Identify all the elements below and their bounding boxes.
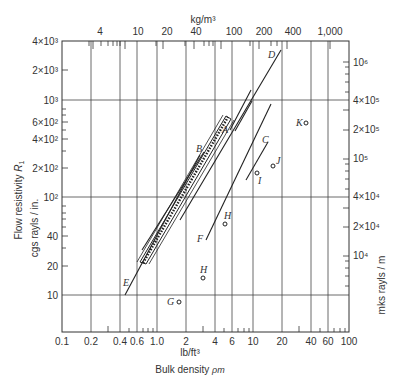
svg-text:D: D bbox=[267, 49, 276, 60]
svg-text:1,000: 1,000 bbox=[317, 26, 342, 37]
svg-text:H: H bbox=[199, 264, 208, 275]
band-A bbox=[137, 115, 234, 264]
svg-text:4: 4 bbox=[212, 336, 218, 347]
svg-text:G: G bbox=[167, 296, 174, 307]
svg-text:10: 10 bbox=[47, 290, 59, 301]
curve-labels: A B C D E F G H H I J K bbox=[122, 49, 304, 307]
svg-text:E: E bbox=[122, 277, 129, 288]
point-K bbox=[304, 121, 308, 125]
svg-text:200: 200 bbox=[256, 26, 273, 37]
svg-text:400: 400 bbox=[285, 26, 302, 37]
svg-text:10⁴: 10⁴ bbox=[353, 250, 368, 261]
svg-text:F: F bbox=[196, 233, 204, 244]
svg-text:0.2: 0.2 bbox=[84, 336, 98, 347]
svg-text:4×10⁴: 4×10⁴ bbox=[353, 191, 380, 202]
svg-text:0.4: 0.4 bbox=[113, 336, 127, 347]
svg-text:10⁶: 10⁶ bbox=[353, 57, 368, 68]
top-axis-ticks bbox=[89, 41, 330, 49]
svg-text:10³: 10³ bbox=[44, 95, 59, 106]
left-axis-ticks bbox=[62, 70, 68, 266]
svg-text:10⁵: 10⁵ bbox=[353, 153, 368, 164]
svg-text:60: 60 bbox=[322, 336, 334, 347]
svg-text:20: 20 bbox=[47, 261, 59, 272]
svg-text:2: 2 bbox=[183, 336, 189, 347]
svg-text:40: 40 bbox=[305, 336, 317, 347]
svg-text:6: 6 bbox=[229, 336, 235, 347]
svg-text:2×10³: 2×10³ bbox=[32, 65, 59, 76]
svg-text:K: K bbox=[295, 117, 304, 128]
bottom-tick-labels: 0.1 0.2 0.4 0.6 1.0 2 4 6 10 20 40 60 10… bbox=[55, 336, 358, 347]
svg-text:0.6: 0.6 bbox=[130, 336, 144, 347]
svg-text:4: 4 bbox=[97, 26, 103, 37]
point-J bbox=[271, 164, 275, 168]
svg-text:100: 100 bbox=[341, 336, 358, 347]
left-tick-labels: 4×10³ 2×10³ 10³ 6×10² 4×10² 2×10² 10² 40… bbox=[32, 36, 59, 301]
point-H-lower bbox=[201, 276, 205, 280]
right-axis-ticks bbox=[343, 62, 349, 286]
svg-text:4×10²: 4×10² bbox=[32, 134, 59, 145]
svg-text:40: 40 bbox=[190, 26, 202, 37]
svg-text:20: 20 bbox=[161, 26, 173, 37]
svg-text:100: 100 bbox=[226, 26, 243, 37]
bottom-axis-ticks bbox=[108, 326, 345, 332]
point-G bbox=[177, 300, 181, 304]
svg-text:40: 40 bbox=[47, 231, 59, 242]
svg-text:2×10⁴: 2×10⁴ bbox=[353, 221, 380, 232]
svg-text:J: J bbox=[276, 155, 281, 166]
plot-frame bbox=[62, 41, 349, 332]
top-axis-title: kg/m³ bbox=[191, 14, 217, 25]
svg-text:4×10³: 4×10³ bbox=[32, 36, 59, 47]
right-tick-labels: 10⁶ 4×10⁵ 2×10⁵ 10⁵ 4×10⁴ 2×10⁴ 10⁴ bbox=[353, 57, 380, 261]
chart-svg: A B C D E F G H H I J K 0.1 0.2 0.4 0.6 … bbox=[0, 0, 395, 381]
svg-text:0.1: 0.1 bbox=[55, 336, 69, 347]
svg-text:10: 10 bbox=[247, 336, 259, 347]
line-A-upper-1 bbox=[230, 90, 251, 130]
svg-text:10: 10 bbox=[132, 26, 144, 37]
vertical-grid bbox=[91, 41, 328, 332]
svg-text:C: C bbox=[262, 134, 269, 145]
y-axis-title: Flow resistivity R1 bbox=[13, 160, 25, 239]
svg-text:20: 20 bbox=[276, 336, 288, 347]
svg-text:1.0: 1.0 bbox=[150, 336, 164, 347]
svg-text:2×10²: 2×10² bbox=[32, 163, 59, 174]
svg-text:4×10⁵: 4×10⁵ bbox=[353, 95, 380, 106]
y-right-axis-title: mks rayls / m bbox=[376, 256, 387, 315]
svg-text:10²: 10² bbox=[44, 192, 59, 203]
svg-text:I: I bbox=[257, 175, 262, 186]
x-units-label: lb/ft³ bbox=[180, 347, 200, 358]
svg-text:2×10⁵: 2×10⁵ bbox=[353, 124, 380, 135]
x-axis-title: Bulk density ρm bbox=[155, 364, 225, 375]
svg-text:A: A bbox=[221, 124, 229, 135]
svg-text:B: B bbox=[196, 143, 202, 154]
y-units-label: cgs rayls / in. bbox=[29, 199, 40, 257]
svg-text:6×10²: 6×10² bbox=[32, 117, 59, 128]
point-H-upper bbox=[223, 222, 227, 226]
top-tick-labels: 4 10 20 40 100 200 400 1,000 bbox=[97, 26, 343, 37]
svg-text:H: H bbox=[223, 210, 232, 221]
